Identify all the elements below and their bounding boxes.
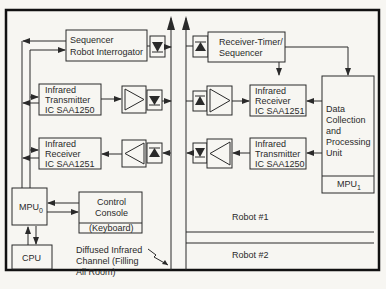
led-icon (147, 90, 171, 110)
block-label: Receiver (255, 96, 291, 106)
block-label: Control (97, 197, 126, 207)
block-label: Robot Interrogator (70, 47, 143, 57)
block-label: Infrared (255, 86, 286, 96)
amplifier-icon (207, 86, 232, 115)
block-diagram: Sequencer Robot Interrogator Infrared Tr… (0, 0, 386, 289)
ir-receiver-left-block: Infrared Receiver IC SAA1251 (39, 138, 101, 169)
amplifier-icon (122, 86, 146, 113)
photodiode-icon (186, 36, 208, 57)
block-label: (Keyboard) (89, 223, 134, 233)
amplifier-icon (122, 140, 146, 167)
channel-label: Diffused Infrared Channel (Filling All R… (76, 245, 168, 277)
block-label: IC SAA1250 (255, 159, 305, 169)
ir-transmitter-right-block: Infrared Transmitter IC SAA1250 (250, 138, 306, 169)
photodiode-icon (186, 91, 207, 111)
block-label: Transmitter (255, 149, 300, 159)
cpu-block: CPU (12, 245, 52, 269)
block-label: IC SAA1250 (45, 105, 95, 115)
robot-2-label: Robot #2 (232, 250, 269, 260)
data-collection-unit-block: Data Collection and Processing Unit MPU1 (322, 76, 374, 193)
robot-regions: Robot #1 Robot #2 (186, 212, 374, 260)
block-label: IC SAA1251 (255, 106, 305, 116)
control-console-block: Control Console (Keyboard) (79, 192, 142, 233)
photodiode-icon (147, 143, 171, 163)
block-label: Unit (326, 148, 343, 158)
block-label: Infrared (45, 139, 76, 149)
block-label: and (326, 126, 341, 136)
block-label: Receiver-Timer/ (219, 37, 283, 47)
led-icon (187, 143, 207, 163)
ir-transmitter-left-block: Infrared Transmitter IC SAA1250 (39, 84, 101, 115)
block-label: Processing (326, 137, 371, 147)
ir-receiver-right-block: Infrared Receiver IC SAA1251 (250, 85, 306, 116)
block-label: Data (326, 104, 345, 114)
block-label: Console (95, 208, 128, 218)
block-label: Transmitter (45, 95, 90, 105)
svg-text:Channel (Filling: Channel (Filling (76, 256, 139, 266)
block-label: IC SAA1251 (45, 159, 95, 169)
sequencer-robot-interrogator-block: Sequencer Robot Interrogator (66, 30, 147, 61)
mpu0-block: MPU0 (12, 188, 47, 225)
receiver-timer-sequencer-block: Receiver-Timer/ Sequencer (208, 32, 285, 62)
block-label: Collection (326, 115, 366, 125)
svg-text:Diffused Infrared: Diffused Infrared (76, 245, 142, 255)
block-label: CPU (22, 253, 41, 263)
block-label: Sequencer (219, 48, 263, 58)
led-icon (150, 36, 171, 57)
block-label: Sequencer (70, 35, 114, 45)
svg-text:All Room): All Room) (76, 267, 116, 277)
robot-1-label: Robot #1 (232, 212, 269, 222)
block-label: Infrared (45, 85, 76, 95)
amplifier-icon (207, 139, 232, 168)
block-label: Infrared (255, 139, 286, 149)
block-label: Receiver (45, 149, 81, 159)
